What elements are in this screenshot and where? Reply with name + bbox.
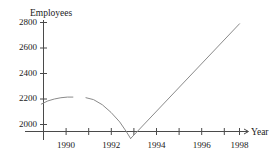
y-tick-label: 2200 [19, 93, 38, 103]
y-tick-label: 2400 [19, 68, 38, 78]
x-tick-label: 1990 [57, 140, 76, 150]
data-curve-segment [41, 97, 73, 104]
x-tick-label: 1996 [193, 140, 212, 150]
y-tick-label: 2000 [19, 119, 38, 129]
x-tick-label: 1994 [148, 140, 167, 150]
y-tick-label: 2600 [19, 42, 38, 52]
y-tick-labels: 2800 2600 2400 2200 2000 [19, 17, 38, 129]
x-tick-labels: 1990 1992 1994 1996 1998 [57, 140, 249, 150]
x-tick-label: 1992 [102, 140, 120, 150]
employees-line-chart: Employees Year 2800 2600 2400 2200 2000 [0, 0, 280, 167]
x-tick-label: 1998 [231, 140, 250, 150]
data-curve-segment [86, 98, 131, 139]
x-axis-title: Year [251, 127, 269, 137]
data-curve-segment [131, 24, 240, 139]
y-tick-label: 2800 [19, 17, 38, 27]
data-series-group [41, 24, 239, 139]
chart-canvas: Employees Year 2800 2600 2400 2200 2000 [0, 0, 280, 167]
